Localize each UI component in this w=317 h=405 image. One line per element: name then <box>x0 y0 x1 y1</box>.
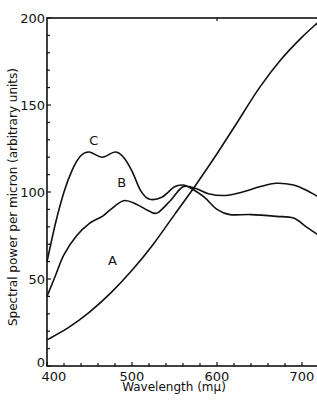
spectral-power-chart: 400500600700 050100150200 ABC Wavelength… <box>0 0 317 405</box>
curves <box>47 22 317 340</box>
curve-a <box>47 22 317 340</box>
curve-label-b: B <box>117 175 126 190</box>
y-tick-label: 0 <box>37 355 45 370</box>
y-tick-label: 200 <box>20 11 45 26</box>
curve-label-a: A <box>108 253 117 268</box>
y-tick-label: 100 <box>20 185 45 200</box>
x-axis-title: Wavelength (mμ) <box>122 380 226 394</box>
x-tick-label: 400 <box>42 369 67 384</box>
y-tick-label: 50 <box>28 272 45 287</box>
y-tick-labels: 050100150200 <box>20 11 45 370</box>
y-tick-label: 150 <box>20 98 45 113</box>
curve-b <box>47 183 317 296</box>
x-tick-label: 700 <box>290 369 315 384</box>
curve-labels: ABC <box>89 133 126 268</box>
curve-label-c: C <box>89 133 98 148</box>
curve-c <box>47 152 317 262</box>
y-axis-title: Spectral power per micron (arbitrary uni… <box>6 68 20 326</box>
